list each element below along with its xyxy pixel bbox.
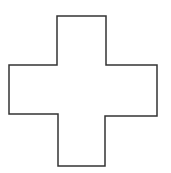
- cross-shape-outline: [9, 16, 157, 166]
- diagram-canvas: [0, 0, 171, 173]
- cross-diagram: [0, 0, 171, 173]
